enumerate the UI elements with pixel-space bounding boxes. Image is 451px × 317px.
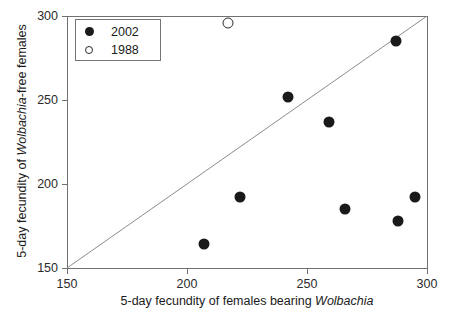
legend-open-circle-icon [76, 46, 102, 54]
x-tick-300 [427, 269, 428, 274]
y-tick-200 [62, 184, 67, 185]
x-tick-label-300: 300 [417, 277, 438, 291]
y-axis-title: 5-day fecundity of Wolbachia-free female… [15, 6, 29, 276]
data-point-1988 [222, 17, 233, 28]
data-point-2002 [198, 239, 209, 250]
x-tick-label-200: 200 [177, 277, 198, 291]
data-point-2002 [410, 192, 421, 203]
data-point-2002 [323, 116, 334, 127]
x-axis-title-pre: 5-day fecundity of females bearing [121, 294, 316, 308]
legend-entry-2002: 2002 [76, 22, 160, 41]
x-tick-label-150: 150 [57, 277, 78, 291]
x-tick-200 [187, 269, 188, 274]
y-tick-150 [62, 268, 67, 269]
y-tick-label-250: 250 [37, 93, 58, 107]
x-tick-150 [67, 269, 68, 274]
legend-filled-circle-icon [76, 27, 102, 36]
y-axis-title-italic: Wolbachia [15, 97, 29, 155]
x-tick-label-250: 250 [297, 277, 318, 291]
x-axis-title-italic: Wolbachia [315, 294, 373, 308]
data-point-2002 [340, 204, 351, 215]
y-tick-label-300: 300 [37, 9, 58, 23]
legend: 2002 1988 [75, 19, 161, 61]
data-point-2002 [390, 36, 401, 47]
y-axis-tick-labels: 150200250300 [0, 16, 67, 268]
y-axis-title-pre: 5-day fecundity of [15, 156, 29, 258]
x-axis-title: 5-day fecundity of females bearing Wolba… [67, 294, 427, 308]
legend-label-1988: 1988 [102, 43, 139, 57]
legend-label-2002: 2002 [102, 25, 139, 39]
y-axis-title-post: -free females [15, 24, 29, 97]
scatter-plot-figure: 150200250300 5-day fecundity of Wolbachi… [0, 0, 451, 317]
y-tick-300 [62, 16, 67, 17]
y-tick-label-200: 200 [37, 177, 58, 191]
y-tick-250 [62, 100, 67, 101]
x-tick-250 [307, 269, 308, 274]
data-point-2002 [282, 91, 293, 102]
data-point-2002 [393, 215, 404, 226]
legend-entry-1988: 1988 [76, 40, 160, 59]
data-point-2002 [234, 192, 245, 203]
y-tick-label-150: 150 [37, 261, 58, 275]
